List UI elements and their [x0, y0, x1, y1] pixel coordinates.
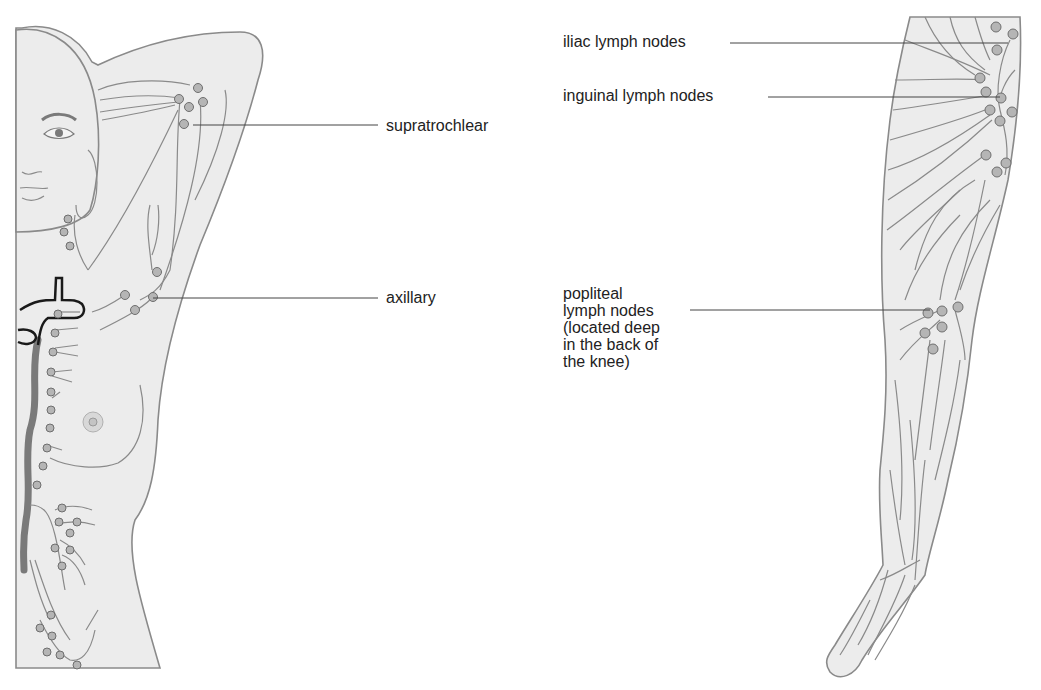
upper-body-figure	[16, 27, 263, 669]
label-iliac-lymph-nodes: iliac lymph nodes	[563, 33, 686, 50]
label-inguinal-lymph-nodes: inguinal lymph nodes	[563, 87, 713, 104]
leg-figure	[827, 17, 1021, 677]
label-axillary: axillary	[386, 289, 436, 306]
illustration	[0, 0, 1041, 690]
label-popliteal-lymph-nodes: popliteal lymph nodes (located deep in t…	[563, 285, 660, 370]
lymph-node-diagram: supratrochlear axillary iliac lymph node…	[0, 0, 1041, 690]
eye-icon	[55, 129, 63, 137]
label-supratrochlear: supratrochlear	[386, 117, 488, 134]
leader-lines	[153, 43, 1008, 310]
leg-silhouette	[827, 17, 1021, 677]
